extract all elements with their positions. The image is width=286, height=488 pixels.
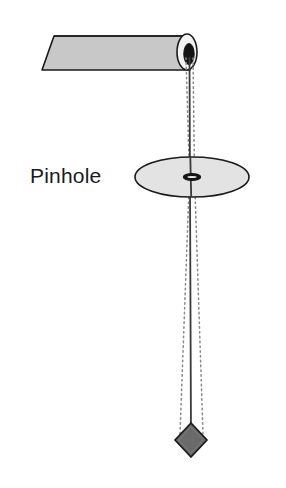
paper-roll-body (42, 36, 190, 70)
paper-roll-group (42, 34, 197, 70)
diagram-canvas (0, 0, 286, 488)
plumb-string (190, 58, 192, 440)
pinhole-label: Pinhole (30, 165, 101, 186)
pinhole-aperture-inner (187, 176, 196, 178)
pinhole-disc-group (135, 157, 249, 197)
pinhole-diagram-figure: Pinhole (0, 0, 286, 488)
light-ray-right (193, 58, 203, 434)
light-ray-left (180, 58, 190, 434)
